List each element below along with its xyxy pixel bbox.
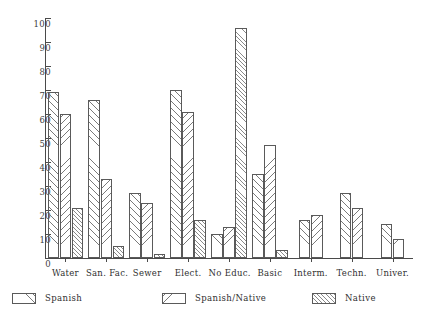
y-tick-mark (46, 90, 51, 91)
x-axis-label: Elect. (168, 268, 209, 278)
chart-legend: SpanishSpanish/NativeNative (0, 288, 423, 308)
legend-item[interactable]: Native (312, 288, 376, 302)
bar (252, 174, 264, 258)
bar (101, 179, 113, 258)
x-tick-mark (393, 258, 394, 262)
bar (299, 220, 311, 258)
bar (113, 246, 125, 258)
bar (129, 193, 141, 258)
bar (88, 100, 100, 258)
bar (264, 145, 276, 258)
y-tick-label: 90 (39, 43, 51, 53)
y-tick-label: 100 (34, 19, 51, 29)
x-tick-mark (106, 258, 107, 262)
x-axis-label: No Educ. (209, 268, 250, 278)
y-tick-mark (46, 66, 51, 67)
x-axis-label: Univer. (372, 268, 413, 278)
legend-swatch (12, 293, 36, 304)
bar (352, 208, 364, 258)
bar (223, 227, 235, 258)
legend-swatch (162, 293, 186, 304)
x-tick-mark (65, 258, 66, 262)
bar-chart: 0102030405060708090100 WaterSan. Fac.Sew… (0, 0, 423, 321)
x-tick-mark (229, 258, 230, 262)
bar (194, 220, 206, 258)
bar (72, 208, 84, 258)
bar (340, 193, 352, 258)
x-axis-label: Basic (249, 268, 290, 278)
bar (276, 250, 288, 258)
x-tick-mark (352, 258, 353, 262)
bar (182, 112, 194, 258)
y-tick: 100 (5, 13, 51, 23)
y-tick: 40 (5, 157, 51, 167)
x-tick-mark (147, 258, 148, 262)
y-tick: 80 (5, 61, 51, 71)
legend-label: Spanish/Native (195, 293, 266, 304)
bar (154, 254, 166, 258)
legend-label: Spanish (45, 293, 82, 304)
bar (235, 28, 247, 258)
x-axis-label: Interm. (290, 268, 331, 278)
bar (393, 239, 405, 258)
y-tick-mark (46, 42, 51, 43)
y-tick-mark (46, 258, 51, 259)
bar (170, 90, 182, 258)
bar (211, 234, 223, 258)
y-tick-label: 0 (45, 259, 51, 269)
bar (381, 224, 393, 258)
y-tick: 10 (5, 229, 51, 239)
y-tick: 60 (5, 109, 51, 119)
legend-item[interactable]: Spanish (12, 288, 82, 302)
y-tick: 50 (5, 133, 51, 143)
y-tick: 70 (5, 85, 51, 95)
x-tick-mark (270, 258, 271, 262)
bar (60, 114, 72, 258)
y-tick: 30 (5, 181, 51, 191)
legend-item[interactable]: Spanish/Native (162, 288, 266, 302)
bar (141, 203, 153, 258)
y-tick-mark (46, 18, 51, 19)
y-tick-label: 80 (39, 67, 51, 77)
bar (311, 215, 323, 258)
legend-label: Native (345, 293, 376, 304)
y-tick: 20 (5, 205, 51, 215)
x-axis-label: Sewer (127, 268, 168, 278)
x-tick-mark (188, 258, 189, 262)
x-axis-label: Water (45, 268, 86, 278)
y-tick: 90 (5, 37, 51, 47)
x-axis-label: Techn. (331, 268, 372, 278)
bar (48, 92, 60, 258)
legend-swatch (312, 293, 336, 304)
x-axis-label: San. Fac. (86, 268, 127, 278)
y-tick: 0 (5, 253, 51, 263)
x-tick-mark (311, 258, 312, 262)
plot-area: 0102030405060708090100 WaterSan. Fac.Sew… (45, 18, 413, 258)
